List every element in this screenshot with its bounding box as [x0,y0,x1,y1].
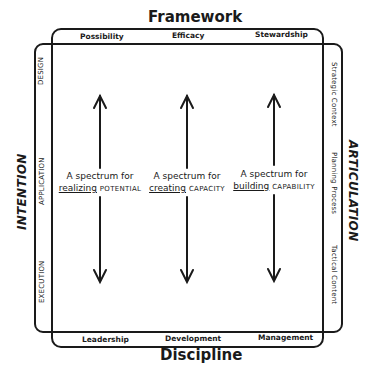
spectrum-capacity: A spectrum for creating CAPACITY [142,170,232,195]
spectrum-capability: A spectrum for building CAPABILITY [229,168,319,193]
spectrum-potential: A spectrum for realizing POTENTIAL [55,170,145,195]
